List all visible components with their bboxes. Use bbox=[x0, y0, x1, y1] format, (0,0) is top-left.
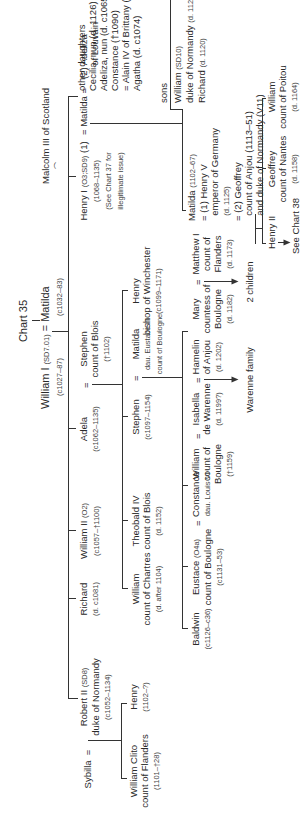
children-bar bbox=[68, 97, 69, 699]
brace: ⌒ bbox=[52, 162, 63, 169]
henry-i-issue-bar bbox=[182, 123, 183, 211]
marriage-sign: = bbox=[78, 129, 89, 135]
person-name: Geoffrey bbox=[266, 151, 277, 187]
reference: (SD7.01) bbox=[42, 334, 51, 364]
person-dates: (d. 1199?) bbox=[214, 392, 223, 426]
connector bbox=[68, 530, 76, 531]
matilda-issue-bar bbox=[262, 99, 263, 244]
person-dates: (1102–?) bbox=[141, 682, 150, 711]
chart-title: Chart 35 bbox=[18, 300, 29, 342]
person-name: Henry bbox=[130, 278, 141, 303]
person-title: Boulogne bbox=[212, 289, 223, 329]
person-dates: (c1099–1171) bbox=[154, 268, 163, 314]
connector bbox=[182, 109, 183, 124]
empress-matilda: Matilda (1102–67) = (1) Henry V emperor … bbox=[186, 94, 265, 221]
connector bbox=[90, 123, 182, 124]
person-dates: (d. c1081) bbox=[91, 582, 100, 616]
person-dates: (†1159) bbox=[225, 451, 234, 476]
person-name: Henry I bbox=[78, 190, 89, 221]
person-title: bishop of Winchester bbox=[141, 247, 152, 336]
king-stephen: Stephen (c1097–1154) bbox=[130, 394, 153, 440]
connector bbox=[121, 703, 127, 704]
matthew-of-flanders: Matthew I count of Flanders (d. 1173) bbox=[190, 233, 235, 274]
connector bbox=[122, 416, 128, 417]
connector bbox=[255, 228, 263, 229]
sons-header: sons bbox=[158, 83, 169, 103]
henry-son-of-robert: Henry (1102–?) bbox=[128, 682, 151, 711]
note: illegitimate issue) bbox=[116, 152, 125, 210]
spouse-name: = (1) Henry V bbox=[198, 164, 209, 221]
person-dates: (1101–†28) bbox=[152, 752, 161, 790]
person-name: Matilda bbox=[78, 96, 89, 127]
connector bbox=[122, 588, 128, 589]
marriage-sign: = bbox=[80, 382, 91, 388]
marriage-sign: = bbox=[39, 325, 51, 331]
person-dates: (1068–1135) bbox=[92, 160, 101, 202]
person-title: Boulogne bbox=[212, 444, 223, 484]
connector bbox=[204, 379, 232, 380]
person-dates: (d. 1164) bbox=[290, 82, 299, 111]
person-dates: (d. 1152) bbox=[154, 506, 163, 535]
person-title: count of Poitou bbox=[277, 65, 288, 128]
person-name: Eustace bbox=[190, 561, 201, 595]
henry-of-winchester: Henry bishop of Winchester (c1099–1171) bbox=[130, 247, 164, 336]
person-title: count of bbox=[201, 237, 212, 271]
adela-issue-bar bbox=[122, 291, 123, 589]
spouse-name: Sybilla bbox=[82, 760, 93, 788]
person-dates: (c1126–c36) bbox=[203, 608, 212, 649]
connector bbox=[122, 520, 128, 521]
arrow-icon bbox=[232, 279, 239, 285]
connector bbox=[182, 485, 188, 486]
marriage-sign: = bbox=[82, 750, 93, 756]
see-chart-38-link[interactable]: See Chart 38 bbox=[290, 198, 301, 254]
person-title: emperor of Germany bbox=[209, 128, 220, 216]
daughters-header: other daughters bbox=[76, 24, 87, 91]
sons-bar bbox=[170, 0, 171, 110]
root-william-i: William I (SD7.01) = Matilda bbox=[40, 286, 52, 409]
william-of-boulogne: William count of Boulogne (†1159) bbox=[190, 444, 235, 484]
connector bbox=[52, 331, 68, 332]
person-title: of Anjou bbox=[201, 340, 212, 374]
person-dates: (c1097–1154) bbox=[143, 394, 152, 440]
person-name: William bbox=[266, 82, 277, 113]
person-title: de Warenne bbox=[201, 383, 212, 434]
daughter-item: Agatha (d. c1074) bbox=[131, 15, 142, 91]
person-title: count of Boulogne bbox=[202, 529, 213, 606]
spouse-name: = (2) Geoffrey bbox=[232, 162, 243, 221]
connector bbox=[182, 566, 188, 567]
connector bbox=[182, 628, 188, 629]
person-dates: (d. 1182) bbox=[225, 294, 234, 323]
theobald-iv: Theobald IV count of Blois (d. 1152) bbox=[130, 492, 164, 549]
robert-issue-bar bbox=[121, 704, 122, 779]
mary-of-boulogne: Mary countess of Boulogne (d. 1182) bbox=[190, 285, 235, 334]
connector bbox=[142, 377, 182, 378]
eustace: Eustace (O4a) count of Boulogne (c1131–5… bbox=[190, 529, 225, 606]
reference: (O2) bbox=[80, 503, 89, 518]
marriage-sign: = bbox=[192, 279, 203, 285]
person-dates: (d. 1202) bbox=[214, 342, 223, 372]
connector bbox=[68, 598, 76, 599]
person-title: count of Nantes bbox=[277, 136, 288, 203]
person-title: count of bbox=[201, 447, 212, 481]
person-title: duke of Normandy bbox=[90, 658, 101, 736]
isabella-de-warenne: Isabella de Warenne (d. 1199?) bbox=[190, 383, 224, 434]
william-of-poitou: William count of Poitou (d. 1164) bbox=[266, 65, 300, 128]
note: (See Chart 37 for bbox=[104, 152, 113, 210]
marriage-number: (1) bbox=[78, 141, 89, 153]
person-dates: (d. after 1104) bbox=[154, 566, 163, 613]
person-name: William bbox=[172, 72, 183, 103]
connector bbox=[204, 281, 232, 282]
person-name: Henry bbox=[128, 684, 139, 709]
hamelin-of-anjou: Hamelin of Anjou (d. 1202) bbox=[190, 340, 224, 375]
person-name: Matthew I bbox=[190, 233, 201, 274]
person-name: Richard bbox=[196, 70, 207, 103]
person-name: Matilda bbox=[186, 190, 197, 221]
connector bbox=[68, 96, 78, 97]
person-title: count of Blois bbox=[89, 320, 100, 377]
two-children: 2 children bbox=[244, 261, 255, 302]
person-name: William bbox=[130, 574, 141, 605]
marriage-sign: = bbox=[192, 520, 203, 526]
person-name: Theobald IV bbox=[130, 495, 141, 546]
william-of-chartres: William count of Chartres (d. after 1104… bbox=[130, 553, 164, 626]
person-title: duke of Normandy bbox=[184, 25, 195, 103]
